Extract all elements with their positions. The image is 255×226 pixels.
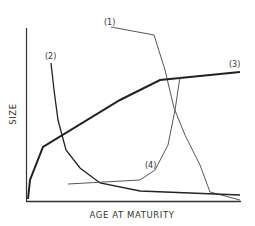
chart: (1) (2) (3) (4) AGE AT MATURITY SIZE [0,0,255,226]
series-3-label: (3) [229,60,240,69]
series-1-label: (1) [104,18,115,27]
y-axis-label: SIZE [8,103,18,125]
series-4-label: (4) [145,161,156,170]
series-2-line [51,63,240,195]
x-axis-label: AGE AT MATURITY [89,210,174,220]
series-2-label: (2) [45,52,56,61]
series-4-line [68,77,180,184]
series-1-line [111,27,240,200]
